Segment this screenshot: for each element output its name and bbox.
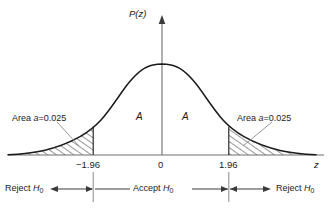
tick-label-center: 0 [158,160,163,170]
right-area-prefix: Area [237,113,259,123]
right-area-value: =0.025 [264,113,292,123]
reject-right-text: Reject [276,183,304,193]
curve-label-right-A: A [182,112,189,122]
y-axis-arrowhead [159,15,166,24]
decision-label-reject-left: Reject H0 [5,184,43,193]
left-area-annotation: Area a=0.025 [12,114,66,123]
figure-canvas [0,0,332,211]
reject-left-text: Reject [5,183,33,193]
reject-left-h: H [33,183,40,193]
decision-label-reject-right: Reject H0 [276,184,314,193]
reject-right-arrow [230,186,271,192]
reject-right-subscript: 0 [311,187,315,194]
tick-label-right-critical: 1.96 [219,160,238,170]
accept-subscript: 0 [170,187,174,194]
accept-h: H [163,183,170,193]
tick-label-left-critical: −1.96 [76,160,100,170]
reject-right-h: H [304,183,311,193]
right-area-leader-line [243,122,272,146]
left-area-prefix: Area [12,113,34,123]
right-area-annotation: Area a=0.025 [237,114,291,123]
x-axis-label: z [314,160,319,170]
left-area-value: =0.025 [39,113,67,123]
reject-left-subscript: 0 [40,187,44,194]
decision-label-accept: Accept H0 [133,184,173,193]
accept-text: Accept [133,183,163,193]
statistics-figure: P(z) z −1.96 0 1.96 A A Area a=0.025 Are… [0,0,332,211]
curve-label-left-A: A [136,112,143,122]
reject-left-arrow [50,186,93,192]
y-axis-label: P(z) [129,9,146,19]
